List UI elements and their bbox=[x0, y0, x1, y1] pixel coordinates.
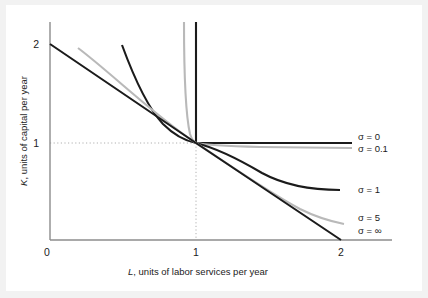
isoquant-chart: 2 1 0 1 2 σ = 0 σ = 0.1 σ = 1 σ = 5 σ = … bbox=[0, 0, 428, 298]
curve-sigma-1 bbox=[122, 45, 340, 190]
legend-label-sigma-infinity: σ = ∞ bbox=[358, 225, 382, 236]
chart-canvas: 2 1 0 1 2 σ = 0 σ = 0.1 σ = 1 σ = 5 σ = … bbox=[0, 0, 428, 298]
y-tick-label-2: 2 bbox=[33, 38, 39, 50]
legend-label-sigma-1: σ = 1 bbox=[358, 184, 380, 195]
curve-sigma-0p1 bbox=[184, 22, 350, 148]
x-axis-title: L, units of labor services per year bbox=[128, 266, 268, 277]
y-axis-title-rest: , units of capital per year bbox=[18, 76, 29, 180]
legend-label-sigma-5: σ = 5 bbox=[358, 212, 380, 223]
figure-container: 2 1 0 1 2 σ = 0 σ = 0.1 σ = 1 σ = 5 σ = … bbox=[0, 0, 428, 298]
x-axis-title-rest: , units of labor services per year bbox=[133, 266, 268, 277]
x-tick-label-0: 0 bbox=[44, 246, 50, 258]
y-tick-label-1: 1 bbox=[33, 137, 39, 149]
legend-label-sigma-0p1: σ = 0.1 bbox=[358, 143, 388, 154]
y-axis-title: K, units of capital per year bbox=[18, 76, 29, 186]
legend-label-sigma-0: σ = 0 bbox=[358, 131, 380, 142]
curve-sigma-5 bbox=[78, 48, 344, 224]
x-tick-label-1: 1 bbox=[193, 246, 199, 258]
curve-sigma-0 bbox=[196, 22, 350, 143]
x-tick-label-2: 2 bbox=[338, 246, 344, 258]
